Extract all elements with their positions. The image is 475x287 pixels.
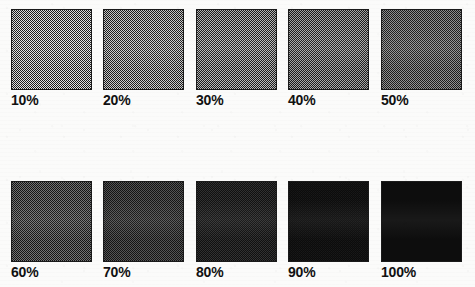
swatch-percent-label: 30% [196, 92, 279, 108]
swatch-percent-label: 60% [11, 264, 94, 280]
swatch-percent-label: 20% [103, 92, 186, 108]
halftone-fill [289, 10, 368, 89]
halftone-fill [12, 10, 91, 89]
swatch-cell: 10% [11, 9, 94, 108]
halftone-fill [104, 10, 183, 89]
swatch-cell: 30% [196, 9, 279, 108]
swatch-cell: 60% [11, 181, 94, 280]
swatch-percent-label: 40% [288, 92, 371, 108]
swatch-cell: 100% [381, 181, 464, 280]
tint-swatch [103, 181, 184, 262]
swatch-percent-label: 10% [11, 92, 94, 108]
halftone-fill [197, 182, 276, 261]
swatch-percent-label: 90% [288, 264, 371, 280]
halftone-fill [289, 182, 368, 261]
swatch-percent-label: 100% [381, 264, 464, 280]
halftone-fill [12, 182, 91, 261]
tint-swatch [11, 181, 92, 262]
halftone-fill [104, 182, 183, 261]
halftone-fill [382, 10, 461, 89]
tint-swatch [381, 9, 462, 90]
swatch-cell: 20% [103, 9, 186, 108]
tint-swatch [381, 181, 462, 262]
tint-swatch [288, 181, 369, 262]
halftone-fill [382, 182, 461, 261]
swatch-cell: 70% [103, 181, 186, 280]
swatch-cell: 40% [288, 9, 371, 108]
tint-swatch [196, 9, 277, 90]
tint-swatch [288, 9, 369, 90]
tint-swatch [103, 9, 184, 90]
tint-swatch [11, 9, 92, 90]
tint-percentage-chart: 10%20%30%40%50%60%70%80%90%100% [0, 0, 475, 287]
swatch-percent-label: 70% [103, 264, 186, 280]
halftone-fill [197, 10, 276, 89]
swatch-cell: 80% [196, 181, 279, 280]
swatch-percent-label: 80% [196, 264, 279, 280]
tint-swatch [196, 181, 277, 262]
swatch-cell: 90% [288, 181, 371, 280]
swatch-cell: 50% [381, 9, 464, 108]
swatch-percent-label: 50% [381, 92, 464, 108]
